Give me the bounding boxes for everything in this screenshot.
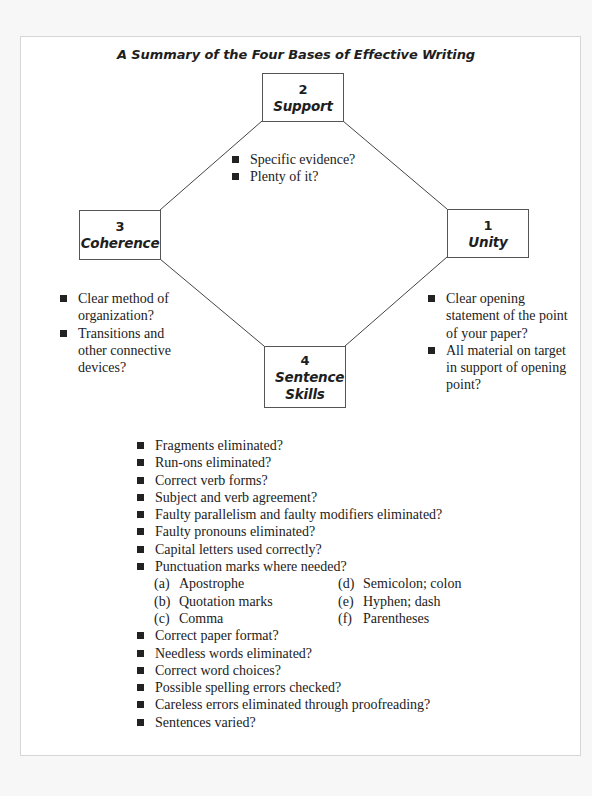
list-item: Possible spelling errors checked? — [137, 679, 557, 696]
square-bullet-icon — [137, 546, 144, 553]
list-item: Needless words eliminated? — [137, 645, 557, 662]
list-item: Correct verb forms? — [137, 472, 557, 489]
list-item: Faulty pronouns eliminated? — [137, 523, 557, 540]
punctuation-item: (c)Comma — [154, 610, 338, 627]
list-item: Specific evidence? — [232, 151, 412, 168]
square-bullet-icon — [137, 667, 144, 674]
box-sentence-skills: 4 Sentence Skills — [264, 346, 346, 408]
square-bullet-icon — [137, 459, 144, 466]
square-bullet-icon — [137, 477, 144, 484]
support-points-list: Specific evidence? Plenty of it? — [232, 151, 412, 186]
square-bullet-icon — [137, 442, 144, 449]
list-item: Faulty parallelism and faulty modifiers … — [137, 506, 557, 523]
list-item: Careless errors eliminated through proof… — [137, 696, 557, 713]
list-item: Clear method of organization? — [60, 290, 180, 325]
box-unity-number: 1 — [483, 217, 492, 234]
punctuation-item: (e)Hyphen; dash — [338, 593, 518, 610]
list-item: Subject and verb agreement? — [137, 489, 557, 506]
list-item: Correct paper format? — [137, 627, 557, 644]
box-coherence: 3 Coherence — [79, 210, 161, 260]
box-unity-label: Unity — [468, 234, 507, 251]
square-bullet-icon — [428, 295, 435, 302]
square-bullet-icon — [137, 494, 144, 501]
coherence-points-list: Clear method of organization? Transition… — [60, 290, 180, 376]
square-bullet-icon — [137, 684, 144, 691]
box-support-number: 2 — [298, 81, 307, 98]
box-coherence-label: Coherence — [81, 235, 160, 252]
box-coherence-number: 3 — [115, 218, 124, 235]
list-item: Punctuation marks where needed? (a)Apost… — [137, 558, 557, 627]
sentence-skills-points-list: Fragments eliminated? Run-ons eliminated… — [137, 437, 557, 731]
punctuation-item: (f)Parentheses — [338, 610, 518, 627]
square-bullet-icon — [137, 650, 144, 657]
list-item: Clear opening statement of the point of … — [428, 290, 568, 342]
unity-points-list: Clear opening statement of the point of … — [428, 290, 568, 394]
box-sentence-skills-number: 4 — [300, 352, 309, 369]
list-item: Correct word choices? — [137, 662, 557, 679]
punctuation-marks-grid: (a)Apostrophe (d)Semicolon; colon (b)Quo… — [154, 575, 557, 627]
square-bullet-icon — [137, 511, 144, 518]
square-bullet-icon — [137, 563, 144, 570]
square-bullet-icon — [428, 347, 435, 354]
square-bullet-icon — [137, 528, 144, 535]
list-item: Plenty of it? — [232, 168, 412, 185]
list-item: All material on target in support of ope… — [428, 342, 568, 394]
square-bullet-icon — [232, 173, 239, 180]
list-item: Capital letters used correctly? — [137, 541, 557, 558]
list-item: Run-ons eliminated? — [137, 454, 557, 471]
punctuation-item: (d)Semicolon; colon — [338, 575, 518, 592]
square-bullet-icon — [60, 330, 67, 337]
square-bullet-icon — [137, 719, 144, 726]
list-item: Transitions and other connective devices… — [60, 325, 180, 377]
punctuation-item: (a)Apostrophe — [154, 575, 338, 592]
box-sentence-skills-label: Sentence Skills — [275, 369, 335, 403]
list-item: Fragments eliminated? — [137, 437, 557, 454]
box-support-label: Support — [273, 98, 333, 115]
punctuation-item: (b)Quotation marks — [154, 593, 338, 610]
square-bullet-icon — [137, 701, 144, 708]
box-support: 2 Support — [262, 73, 344, 122]
box-unity: 1 Unity — [447, 209, 529, 258]
square-bullet-icon — [60, 295, 67, 302]
square-bullet-icon — [232, 156, 239, 163]
square-bullet-icon — [137, 632, 144, 639]
list-item: Sentences varied? — [137, 714, 557, 731]
